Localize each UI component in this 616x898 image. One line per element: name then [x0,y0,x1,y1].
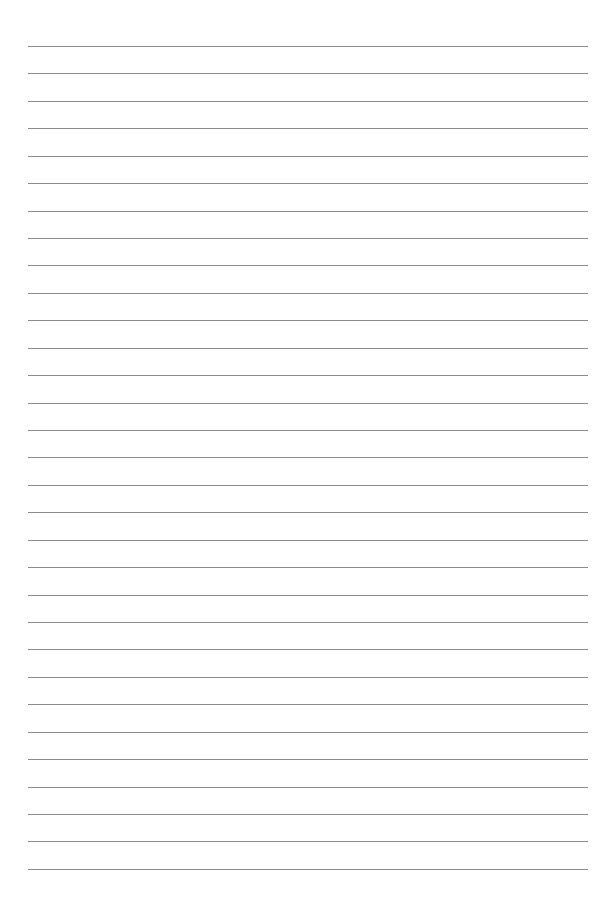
ruled-line [28,759,588,760]
ruled-line [28,375,588,376]
ruled-line [28,238,588,239]
ruled-line [28,622,588,623]
ruled-line [28,211,588,212]
ruled-line [28,101,588,102]
ruled-line [28,704,588,705]
ruled-line [28,787,588,788]
ruled-line [28,430,588,431]
ruled-line [28,320,588,321]
ruled-line [28,814,588,815]
ruled-line [28,128,588,129]
ruled-line [28,403,588,404]
ruled-line [28,73,588,74]
ruled-line [28,293,588,294]
ruled-line [28,677,588,678]
ruled-line [28,183,588,184]
lined-paper-page [0,0,616,898]
ruled-line [28,869,588,870]
ruled-line [28,649,588,650]
ruled-line [28,348,588,349]
ruled-line [28,457,588,458]
ruled-line [28,567,588,568]
ruled-line [28,595,588,596]
ruled-line [28,485,588,486]
ruled-line [28,540,588,541]
ruled-line [28,841,588,842]
ruled-line [28,46,588,47]
ruled-line [28,512,588,513]
ruled-line [28,732,588,733]
ruled-line [28,156,588,157]
ruled-line [28,265,588,266]
